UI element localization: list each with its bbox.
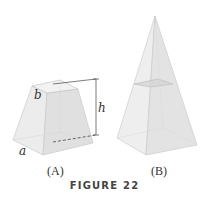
pyramid-b: [117, 16, 197, 155]
caption-b: (B): [151, 164, 167, 178]
frustum-front-face: [43, 89, 93, 155]
figure-canvas: b h a (A) (B): [0, 0, 209, 202]
figure-title: FIGURE 22: [0, 180, 209, 191]
label-a: a: [19, 144, 26, 158]
frustum-a: b h a: [13, 79, 106, 158]
label-h: h: [98, 101, 106, 115]
label-b: b: [34, 88, 42, 102]
caption-a: (A): [47, 164, 64, 178]
